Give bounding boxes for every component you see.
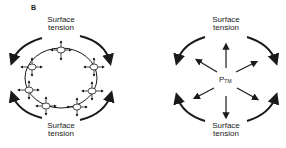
ptm-sub: TM bbox=[224, 78, 231, 84]
curved-arrow-top-left bbox=[177, 37, 205, 62]
right-bottom-label: Surface tension bbox=[201, 122, 251, 138]
label-line: tension bbox=[36, 130, 86, 138]
curved-arrow-top-right bbox=[80, 36, 110, 62]
right-top-label: Surface tension bbox=[201, 16, 251, 32]
left-top-label: Surface tension bbox=[36, 16, 86, 32]
radial-arrow-downright bbox=[237, 88, 257, 99]
label-line: tension bbox=[201, 130, 251, 138]
label-line: tension bbox=[201, 24, 251, 32]
left-diagram bbox=[12, 36, 111, 120]
curved-arrow-top-left bbox=[12, 38, 42, 62]
curved-arrow-top-right bbox=[247, 37, 276, 62]
radial-arrow-upleft bbox=[197, 60, 217, 72]
radial-arrow-upright bbox=[236, 62, 256, 72]
radial-arrow-downleft bbox=[195, 88, 214, 98]
label-line: tension bbox=[36, 24, 86, 32]
left-bottom-label: Surface tension bbox=[36, 122, 86, 138]
transmural-pressure-label: PTM bbox=[219, 75, 232, 84]
curved-arrow-bottom-left bbox=[177, 96, 205, 121]
curved-arrow-bottom-right bbox=[247, 96, 276, 121]
